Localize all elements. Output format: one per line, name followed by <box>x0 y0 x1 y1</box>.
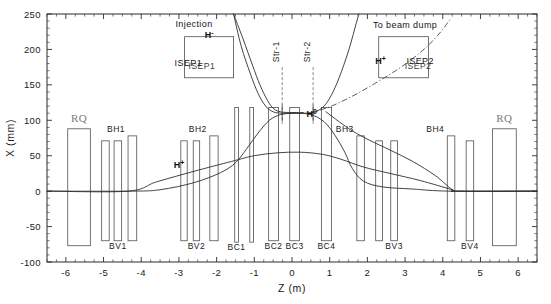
y-tick-label: 150 <box>24 79 41 90</box>
magnet-label-bc3: BC3 <box>286 241 304 251</box>
x-tick-label: 1 <box>327 267 333 278</box>
y-tick-label: 50 <box>30 150 41 161</box>
beam-path-1 <box>234 14 304 113</box>
annotation-2: ISEP1 <box>175 58 203 68</box>
magnet-bh3a <box>357 136 365 241</box>
magnet-label-rq-right: RQ <box>496 112 512 124</box>
magnet-bc4 <box>321 108 331 241</box>
x-tick-label: -5 <box>99 267 108 278</box>
magnet-bc1b <box>250 108 254 243</box>
magnet-label-bv1b: BV1 <box>109 241 127 251</box>
y-axis-title: X (mm) <box>4 119 16 157</box>
magnet-label-bh4a: BH4 <box>426 124 444 134</box>
annotation-1: H- <box>205 29 215 41</box>
magnet-label-rq-left: RQ <box>71 112 87 124</box>
x-tick-label: 3 <box>402 267 408 278</box>
y-tick-label: 250 <box>24 9 41 20</box>
annotation-6: H+ <box>174 158 185 170</box>
annotation-7: H0 <box>306 107 317 119</box>
annotation-0: Injection <box>175 19 212 29</box>
beam-trajectories <box>47 14 537 192</box>
magnet-label-bc1: BC1 <box>228 242 246 252</box>
x-tick-label: -6 <box>61 267 70 278</box>
beamline-plot-svg: -6-5-4-3-2-10123456-100-5005010015020025… <box>0 0 551 304</box>
magnet-bv3b <box>391 141 398 241</box>
y-tick-label: 200 <box>24 44 41 55</box>
y-tick-label: 100 <box>24 115 41 126</box>
magnet-rq-right <box>493 129 517 246</box>
annotation-4: H+ <box>375 54 386 66</box>
magnet-label-bc2: BC2 <box>265 241 283 251</box>
x-tick-label: -1 <box>250 267 259 278</box>
magnet-bv2b <box>193 141 199 241</box>
stripper-label-str-1: Str-1 <box>271 41 281 62</box>
magnet-label-bv3b: BV3 <box>385 241 403 251</box>
y-tick-label: -50 <box>26 221 41 232</box>
magnet-bc2 <box>269 108 279 241</box>
x-tick-label: 2 <box>365 267 371 278</box>
magnet-bh1 <box>128 136 137 241</box>
magnet-label-bh2: BH2 <box>189 124 207 134</box>
magnet-bc1 <box>235 108 239 243</box>
magnet-label-bh1: BH1 <box>107 124 125 134</box>
plot-frame <box>47 14 537 262</box>
x-tick-label: 5 <box>478 267 484 278</box>
annotation-3: To beam dump <box>373 20 437 30</box>
x-tick-label: 4 <box>440 267 446 278</box>
annotation-5: ISEP2 <box>406 56 434 66</box>
x-tick-label: -4 <box>137 267 146 278</box>
x-tick-label: 6 <box>515 267 521 278</box>
x-tick-label: -2 <box>212 267 221 278</box>
x-axis-title: Z (m) <box>278 282 306 294</box>
stripper-label-str-2: Str-2 <box>302 41 312 62</box>
septum-isep1 <box>185 37 234 78</box>
magnet-label-bc4: BC4 <box>317 241 335 251</box>
beam-path-0 <box>47 152 537 192</box>
x-tick-label: 0 <box>289 267 295 278</box>
magnet-bc3 <box>290 108 300 241</box>
magnet-bv3a <box>376 141 383 241</box>
x-tick-label: -3 <box>174 267 183 278</box>
magnet-bh2 <box>210 136 218 241</box>
y-tick-label: 0 <box>35 186 41 197</box>
magnet-elements: RQBV1BH1BV2BH2BC1BC2BC3BC4BH3BV3BH4BV4RQ <box>68 108 517 253</box>
y-tick-label: -100 <box>20 257 41 268</box>
magnet-label-bv4: BV4 <box>461 241 479 251</box>
beamline-layout-figure: -6-5-4-3-2-10123456-100-5005010015020025… <box>0 0 551 304</box>
magnet-bv2a <box>181 141 187 241</box>
axis-ticks <box>47 14 537 262</box>
magnet-rq-left <box>68 129 91 246</box>
magnet-label-bv2b: BV2 <box>188 241 206 251</box>
